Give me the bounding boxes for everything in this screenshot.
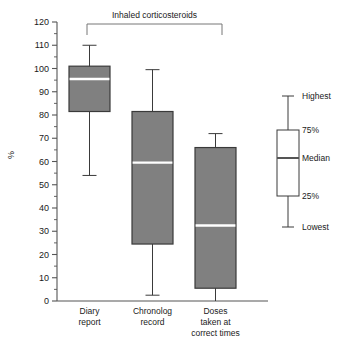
box-plot-item xyxy=(69,45,110,175)
y-tick-label: 90 xyxy=(39,87,49,97)
y-axis-ticks xyxy=(52,22,57,301)
boxplot-svg: % 0102030405060708090100110120 Inhaled c… xyxy=(0,0,342,348)
y-tick-label: 40 xyxy=(39,203,49,213)
legend-label-median: Median xyxy=(302,153,330,163)
y-axis-title: % xyxy=(6,151,16,159)
x-category-label: Doses xyxy=(203,306,227,316)
x-category-label: record xyxy=(140,317,164,327)
bracket-path xyxy=(87,24,222,35)
x-axis-category-labels: DiaryreportChronologrecordDosestaken atc… xyxy=(78,306,239,338)
x-category-label: report xyxy=(78,317,101,327)
x-category-label: Chronolog xyxy=(133,306,172,316)
y-tick-label: 70 xyxy=(39,133,49,143)
annotation-label: Inhaled corticosteroids xyxy=(112,10,197,20)
y-tick-label: 110 xyxy=(35,40,49,50)
box-series xyxy=(69,45,236,301)
y-tick-label: 60 xyxy=(39,157,49,167)
x-category-label: taken at xyxy=(200,317,231,327)
y-tick-label: 80 xyxy=(39,110,49,120)
y-tick-label: 100 xyxy=(34,64,49,74)
y-tick-label: 10 xyxy=(39,273,49,283)
legend-label-q1: 25% xyxy=(302,191,319,201)
box-rect xyxy=(195,148,236,289)
y-tick-label: 0 xyxy=(44,296,49,306)
legend: Highest75%Median25%Lowest xyxy=(277,91,331,232)
box-plot-item xyxy=(132,70,173,296)
y-tick-label: 30 xyxy=(39,226,49,236)
x-category-label: Diary xyxy=(80,306,101,316)
box-plot-item xyxy=(195,134,236,301)
legend-label-q3: 75% xyxy=(302,125,319,135)
y-axis-tick-labels: 0102030405060708090100110120 xyxy=(34,17,49,306)
box-rect xyxy=(132,112,173,245)
y-tick-label: 20 xyxy=(39,250,49,260)
legend-box-rect xyxy=(277,130,299,196)
box-rect xyxy=(69,66,110,111)
boxplot-figure: % 0102030405060708090100110120 Inhaled c… xyxy=(0,0,342,348)
y-tick-label: 120 xyxy=(34,17,49,27)
x-category-label: correct times xyxy=(191,328,240,338)
legend-label-highest: Highest xyxy=(302,91,331,101)
legend-label-lowest: Lowest xyxy=(302,222,330,232)
annotation-bracket xyxy=(87,24,222,35)
y-tick-label: 50 xyxy=(39,180,49,190)
